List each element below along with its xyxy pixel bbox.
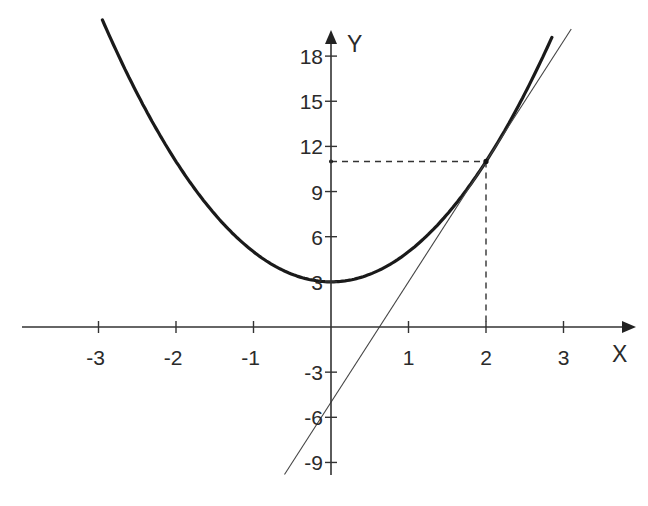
y-axis-arrow-icon <box>325 30 337 44</box>
x-tick-label: -3 <box>86 346 105 369</box>
x-axis-title: X <box>612 341 627 367</box>
parabola-curve <box>102 20 552 282</box>
y-tick-label: 18 <box>300 45 323 68</box>
x-tick-label: 3 <box>558 346 570 369</box>
tangent-line <box>285 29 572 474</box>
y-tick-label: 12 <box>300 135 323 158</box>
y-tick-label: 15 <box>300 90 323 113</box>
y-tick-label: 6 <box>311 226 323 249</box>
plot-curves <box>102 20 571 475</box>
y-axis-title: Y <box>347 31 362 57</box>
x-tick-label: 1 <box>403 346 415 369</box>
x-tick-label: -1 <box>241 346 260 369</box>
x-tick-label: -2 <box>164 346 183 369</box>
y-tick-label: -3 <box>304 361 323 384</box>
y-tick-label: 9 <box>311 181 323 204</box>
axis-ticks: -3-2-1123181512963-3-6-9 <box>86 45 569 474</box>
y-tick-label: -6 <box>304 406 323 429</box>
function-plot: -3-2-1123181512963-3-6-9 X Y <box>0 0 648 506</box>
y-tick-label: -9 <box>304 451 323 474</box>
x-axis-arrow-icon <box>622 321 636 333</box>
axes <box>22 30 636 475</box>
x-tick-label: 2 <box>480 346 492 369</box>
y-tick-label: 3 <box>311 271 323 294</box>
tangent-point-marker <box>483 159 488 164</box>
dashed-guides <box>329 159 489 327</box>
